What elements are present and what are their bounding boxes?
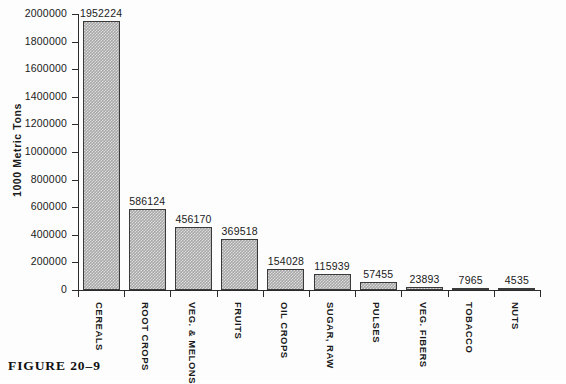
bar-item[interactable]: 586124 — [129, 209, 166, 290]
x-axis-tick — [124, 290, 125, 297]
bar[interactable] — [360, 282, 397, 290]
bar-value-label: 154028 — [268, 255, 304, 267]
bar-value-label: 57455 — [363, 268, 393, 280]
x-axis-tick — [170, 290, 171, 297]
bar-item[interactable]: 115939 — [314, 274, 351, 290]
y-axis-tick-label: 800000 — [31, 173, 67, 185]
y-axis-tick: 1400000 — [72, 97, 79, 98]
y-axis-tick: 800000 — [72, 180, 79, 181]
plot-area: 0200000400000600000800000100000012000001… — [78, 14, 540, 290]
bar[interactable] — [221, 239, 258, 290]
x-axis-category-label: VEG. & MELONS — [187, 302, 198, 384]
bar[interactable] — [129, 209, 166, 290]
y-axis-tick: 1000000 — [72, 152, 79, 153]
y-axis-tick-label: 400000 — [31, 228, 67, 240]
y-axis-tick-label: 1000000 — [25, 145, 67, 157]
x-axis-tick — [263, 290, 264, 297]
x-axis-tick — [540, 290, 541, 297]
x-axis-tick — [355, 290, 356, 297]
bar-item[interactable]: 7965 — [452, 288, 489, 290]
bar-item[interactable]: 456170 — [175, 227, 212, 290]
y-axis-tick-label: 1400000 — [25, 90, 67, 102]
bar-value-label: 23893 — [409, 273, 439, 285]
x-axis-tick — [78, 290, 79, 297]
x-axis-tick — [309, 290, 310, 297]
bar-value-label: 369518 — [222, 225, 258, 237]
y-axis-tick-label: 200000 — [31, 255, 67, 267]
y-axis-tick: 400000 — [72, 235, 79, 236]
bar-value-label: 1952224 — [80, 7, 122, 19]
x-axis-category-label: ROOT CROPS — [140, 302, 151, 371]
y-axis-tick: 200000 — [72, 262, 79, 263]
y-axis-tick: 1200000 — [72, 124, 79, 125]
bar-item[interactable]: 154028 — [267, 269, 304, 290]
x-axis-tick — [494, 290, 495, 297]
bar[interactable] — [83, 21, 120, 290]
y-axis-tick: 600000 — [72, 207, 79, 208]
bar-item[interactable]: 4535 — [498, 288, 535, 290]
x-axis-category-label: PULSES — [371, 302, 382, 343]
figure-caption: FIGURE 20–9 — [8, 358, 101, 374]
x-axis-category-label: TOBACCO — [464, 302, 475, 353]
bar-value-label: 456170 — [175, 213, 211, 225]
bar-item[interactable]: 369518 — [221, 239, 258, 290]
bar-value-label: 115939 — [314, 260, 349, 272]
y-axis-tick: 2000000 — [72, 14, 79, 15]
bar[interactable] — [267, 269, 304, 290]
bar-item[interactable]: 1952224 — [83, 21, 120, 290]
y-axis-tick-label: 1800000 — [25, 35, 67, 47]
bar-value-label: 4535 — [505, 274, 529, 286]
bar-item[interactable]: 57455 — [360, 282, 397, 290]
x-axis-tick — [448, 290, 449, 297]
x-axis-category-label: VEG. FIBERS — [418, 302, 429, 368]
y-axis-tick-label: 0 — [61, 283, 67, 295]
bar[interactable] — [314, 274, 351, 290]
x-axis-category-label: OIL CROPS — [279, 302, 290, 359]
y-axis-tick-label: 1600000 — [25, 62, 67, 74]
x-axis-category-label: CEREALS — [94, 302, 105, 351]
y-axis-tick-label: 1200000 — [25, 117, 67, 129]
x-axis-category-label: SUGAR, RAW — [325, 302, 336, 369]
bar[interactable] — [175, 227, 212, 290]
bar-value-label: 7965 — [459, 274, 483, 286]
bar[interactable] — [498, 288, 535, 290]
y-axis-tick: 1800000 — [72, 42, 79, 43]
x-axis-tick — [401, 290, 402, 297]
bar[interactable] — [406, 287, 443, 290]
y-axis-tick-label: 2000000 — [25, 7, 67, 19]
bar-value-label: 586124 — [129, 195, 165, 207]
x-axis-tick — [217, 290, 218, 297]
x-axis-category-label: NUTS — [510, 302, 521, 330]
y-axis-tick-label: 600000 — [31, 200, 67, 212]
x-axis-category-label: FRUITS — [233, 302, 244, 339]
bar[interactable] — [452, 288, 489, 290]
y-axis-title-text: 1000 Metric Tons — [11, 103, 23, 197]
bar-item[interactable]: 23893 — [406, 287, 443, 290]
y-axis-tick: 1600000 — [72, 69, 79, 70]
